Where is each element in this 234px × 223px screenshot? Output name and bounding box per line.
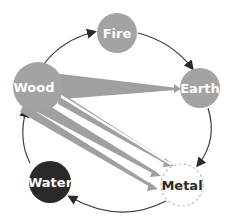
node-water-label: Water bbox=[28, 175, 73, 190]
edge-earth-to-metal bbox=[198, 108, 211, 165]
node-wood: Wood bbox=[13, 62, 63, 112]
edge-fire-to-earth bbox=[138, 33, 192, 68]
node-fire: Fire bbox=[97, 13, 137, 53]
node-metal-label: Metal bbox=[161, 178, 202, 193]
node-fire-label: Fire bbox=[103, 26, 132, 41]
node-metal: Metal bbox=[161, 164, 203, 206]
node-water: Water bbox=[28, 161, 73, 203]
node-wood-label: Wood bbox=[13, 80, 54, 95]
five-elements-diagram: Fire Earth Metal Water Wood bbox=[0, 0, 234, 223]
edge-wood-to-fire bbox=[44, 32, 94, 64]
edge-metal-to-water bbox=[70, 197, 166, 212]
edge-water-to-wood bbox=[23, 110, 30, 163]
node-earth: Earth bbox=[180, 68, 220, 108]
node-earth-label: Earth bbox=[180, 81, 220, 96]
